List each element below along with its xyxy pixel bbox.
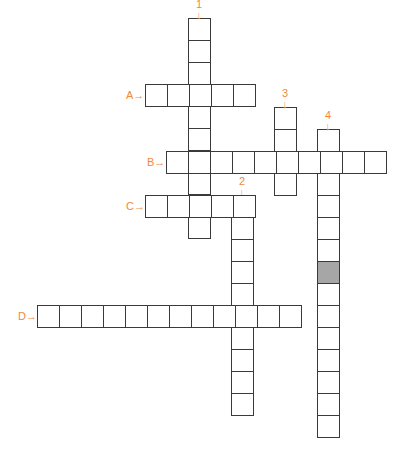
cell-across-B[interactable] — [254, 151, 277, 174]
cell-down-4[interactable] — [317, 393, 340, 416]
clue-number-3: 3↓ — [282, 88, 288, 110]
cell-across-B[interactable] — [232, 151, 255, 174]
cell-across-C[interactable] — [233, 195, 256, 218]
clue-number-1: 1↓ — [196, 0, 202, 21]
cell-down-3[interactable] — [274, 173, 297, 196]
cell-across-D[interactable] — [103, 305, 126, 328]
cell-down-4[interactable] — [317, 305, 340, 328]
cell-down-4[interactable] — [317, 217, 340, 240]
cell-across-B[interactable] — [298, 151, 321, 174]
cell-down-2[interactable] — [231, 393, 254, 416]
cell-across-C[interactable] — [211, 195, 234, 218]
cell-across-D[interactable] — [213, 305, 236, 328]
cell-down-4[interactable] — [317, 195, 340, 218]
cell-across-A[interactable] — [167, 84, 190, 107]
cell-across-A[interactable] — [145, 84, 168, 107]
cell-down-1[interactable] — [188, 18, 211, 41]
cell-down-4[interactable] — [317, 239, 340, 262]
clue-letter-D: D→ — [18, 311, 37, 322]
shaded-cell — [317, 261, 340, 284]
cell-down-1[interactable] — [188, 62, 211, 85]
cell-down-3[interactable] — [274, 107, 297, 130]
cell-across-B[interactable] — [320, 151, 343, 174]
cell-down-2[interactable] — [231, 217, 254, 240]
cell-across-B[interactable] — [276, 151, 299, 174]
cell-across-C[interactable] — [189, 195, 212, 218]
cell-across-B[interactable] — [166, 151, 189, 174]
cell-across-D[interactable] — [191, 305, 214, 328]
cell-down-2[interactable] — [231, 283, 254, 306]
cell-down-2[interactable] — [231, 261, 254, 284]
cell-across-D[interactable] — [59, 305, 82, 328]
cell-across-D[interactable] — [147, 305, 170, 328]
cell-across-D[interactable] — [235, 305, 258, 328]
cell-across-D[interactable] — [37, 305, 60, 328]
cell-down-4[interactable] — [317, 349, 340, 372]
cell-across-B[interactable] — [364, 151, 387, 174]
cell-down-2[interactable] — [231, 239, 254, 262]
cell-down-1[interactable] — [188, 106, 211, 129]
cell-down-2[interactable] — [231, 327, 254, 350]
cell-down-1[interactable] — [188, 40, 211, 63]
clue-letter-B: B→ — [147, 157, 165, 168]
cell-across-C[interactable] — [145, 195, 168, 218]
cell-across-C[interactable] — [167, 195, 190, 218]
cell-across-B[interactable] — [210, 151, 233, 174]
clue-letter-C: C→ — [126, 201, 145, 212]
cell-down-4[interactable] — [317, 415, 340, 438]
cell-across-D[interactable] — [279, 305, 302, 328]
cell-down-4[interactable] — [317, 173, 340, 196]
cell-down-4[interactable] — [317, 129, 340, 152]
cell-down-4[interactable] — [317, 371, 340, 394]
cell-across-D[interactable] — [81, 305, 104, 328]
cell-across-A[interactable] — [189, 84, 212, 107]
cell-down-2[interactable] — [231, 349, 254, 372]
cell-across-B[interactable] — [188, 151, 211, 174]
cell-down-1[interactable] — [188, 172, 211, 195]
cell-across-D[interactable] — [125, 305, 148, 328]
cell-across-A[interactable] — [233, 84, 256, 107]
cell-down-2[interactable] — [231, 371, 254, 394]
cell-down-1[interactable] — [188, 216, 211, 239]
cell-across-D[interactable] — [257, 305, 280, 328]
clue-letter-A: A→ — [126, 90, 144, 101]
cell-across-D[interactable] — [169, 305, 192, 328]
cell-across-A[interactable] — [211, 84, 234, 107]
cell-down-4[interactable] — [317, 283, 340, 306]
cell-down-4[interactable] — [317, 327, 340, 350]
cell-down-1[interactable] — [188, 128, 211, 151]
cell-down-3[interactable] — [274, 129, 297, 152]
cell-across-B[interactable] — [342, 151, 365, 174]
clue-number-4: 4↓ — [325, 110, 331, 132]
